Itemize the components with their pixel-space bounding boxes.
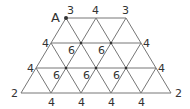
vertex-label: 4 — [143, 37, 150, 50]
vertex-label: 6 — [98, 44, 105, 57]
vertex-label: 2 — [11, 87, 18, 100]
vertex-label: 2 — [175, 87, 182, 100]
triangular-grid-diagram: A 3 4 3 4 6 6 4 4 6 6 6 4 2 4 4 4 4 2 — [0, 0, 190, 109]
diag-right-1 — [126, 18, 171, 93]
vertex-dot — [110, 42, 113, 45]
diag-right-5 — [36, 68, 51, 93]
vertex-label: 4 — [27, 62, 34, 75]
diag-left-5 — [141, 68, 156, 93]
vertex-label: 4 — [158, 62, 165, 75]
vertex-label: 4 — [42, 37, 49, 50]
vertex-label: 3 — [122, 4, 129, 17]
vertex-label: 4 — [92, 4, 99, 17]
vertex-label: 4 — [108, 96, 115, 109]
vertex-dot — [65, 67, 68, 70]
vertex-label: 6 — [68, 44, 75, 57]
point-a-label: A — [51, 10, 60, 25]
vertex-label: 4 — [48, 96, 55, 109]
vertex-dot — [125, 67, 128, 70]
vertex-label: 3 — [67, 4, 74, 17]
vertex-label: 4 — [138, 96, 145, 109]
vertex-dot — [95, 67, 98, 70]
vertex-dot — [80, 42, 83, 45]
vertex-label: 6 — [113, 69, 120, 82]
grid-lines — [21, 18, 171, 93]
vertex-label: 6 — [83, 69, 90, 82]
vertex-label: 6 — [53, 69, 60, 82]
vertex-label: 4 — [78, 96, 85, 109]
